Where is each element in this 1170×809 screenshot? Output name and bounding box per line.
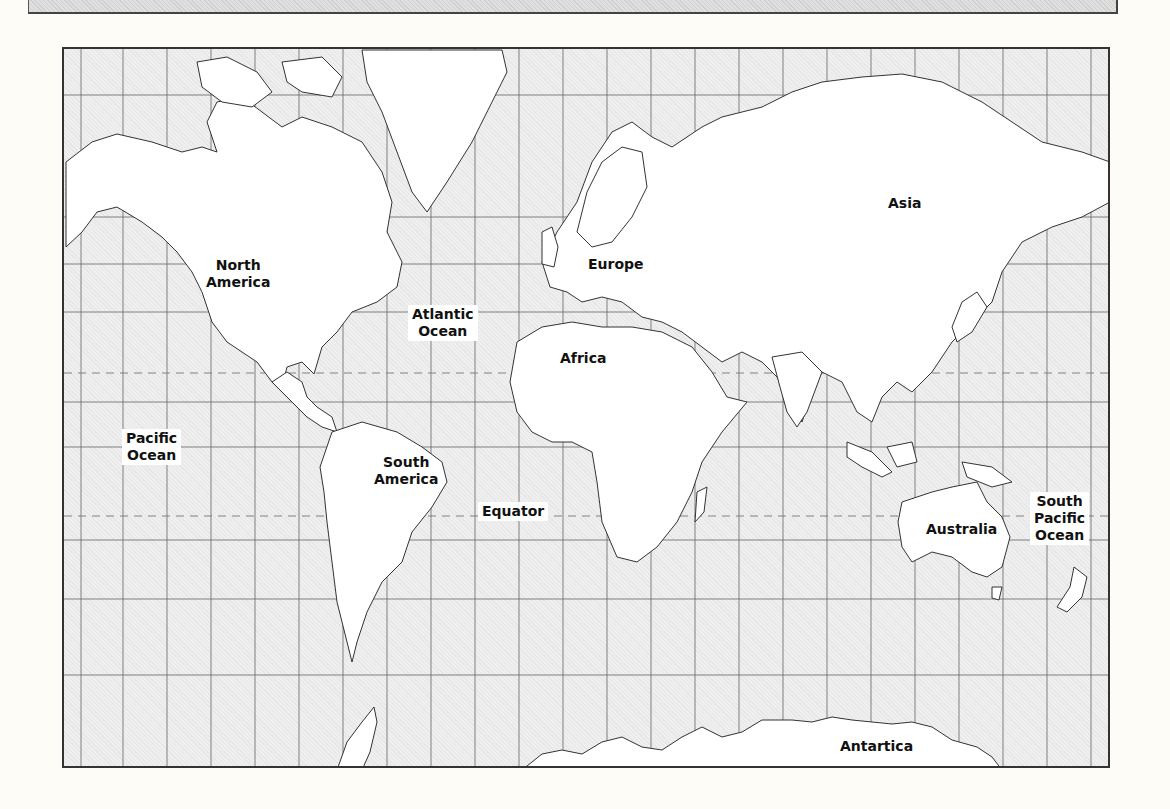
world-map: North America Atlantic Ocean Europe Asia… <box>62 47 1110 768</box>
label-line: Europe <box>588 256 644 273</box>
british-isles-landmass <box>542 227 558 267</box>
label-line: Asia <box>888 195 921 212</box>
label-line: America <box>206 274 270 291</box>
label-australia: Australia <box>922 520 1001 539</box>
label-africa: Africa <box>556 349 610 368</box>
label-north-america: North America <box>202 256 274 292</box>
label-pacific-ocean: Pacific Ocean <box>122 429 181 465</box>
arctic-islands <box>282 57 342 97</box>
label-south-pacific-ocean: South Pacific Ocean <box>1030 492 1089 545</box>
label-line: Ocean <box>126 447 177 464</box>
label-asia: Asia <box>884 194 925 213</box>
label-line: Africa <box>560 350 606 367</box>
map-graphic <box>64 49 1110 768</box>
north-america-landmass <box>66 97 402 387</box>
label-atlantic-ocean: Atlantic Ocean <box>408 305 478 341</box>
label-europe: Europe <box>584 255 648 274</box>
africa-landmass <box>510 322 747 562</box>
label-line: North <box>206 257 270 274</box>
label-line: Antartica <box>840 738 913 755</box>
label-line: Pacific <box>126 430 177 447</box>
label-line: Pacific <box>1034 510 1085 527</box>
label-line: South <box>374 454 438 471</box>
label-line: Equator <box>482 503 544 520</box>
indonesia-islands <box>887 442 917 467</box>
arctic-islands <box>197 57 272 107</box>
label-south-america: South America <box>370 453 442 489</box>
label-line: America <box>374 471 438 488</box>
antarctica-landmass <box>522 717 1002 768</box>
new-zealand-landmass <box>1057 567 1087 612</box>
label-line: Ocean <box>1034 527 1085 544</box>
label-line: South <box>1034 493 1085 510</box>
label-line: Australia <box>926 521 997 538</box>
madagascar-landmass <box>695 487 707 522</box>
label-equator: Equator <box>478 502 548 521</box>
label-line: Atlantic <box>412 306 474 323</box>
label-line: Ocean <box>412 323 474 340</box>
tasmania-landmass <box>992 587 1002 600</box>
header-band <box>28 0 1118 14</box>
label-antarctica: Antartica <box>836 737 917 756</box>
